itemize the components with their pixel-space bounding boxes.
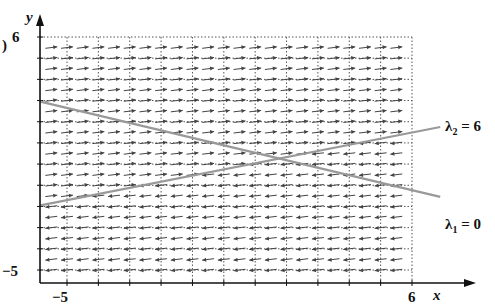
svg-text:λ2 = 6: λ2 = 6	[445, 118, 481, 137]
lambda1-label: λ1 = 0	[445, 216, 481, 235]
x-tick-6: 6	[408, 289, 416, 305]
x-axis-label: x	[432, 287, 441, 303]
y-tick-neg5: −5	[2, 263, 18, 279]
x-tick-neg5: −5	[52, 289, 68, 305]
y-axis-label: y	[24, 9, 33, 25]
y-tick-6: 6	[12, 29, 20, 45]
lambda2-label: λ2 = 6	[445, 118, 481, 137]
y-axis-arrow-icon	[36, 14, 44, 26]
part-label: )	[2, 37, 7, 54]
lambda2-line	[40, 127, 440, 205]
svg-text:λ1 = 0: λ1 = 0	[445, 216, 481, 235]
x-axis-arrow-icon	[464, 279, 476, 287]
direction-field-plot: ) y 6 −5 −5 6 x λ2 = 6 λ1 = 0	[0, 0, 495, 305]
arrow-field	[45, 45, 402, 272]
